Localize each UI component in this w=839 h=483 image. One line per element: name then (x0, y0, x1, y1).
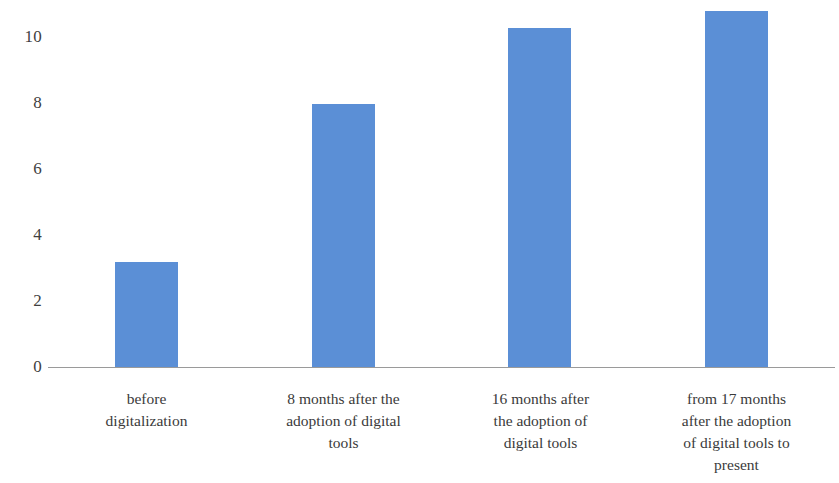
bar (312, 104, 375, 368)
bars-layer (0, 0, 839, 368)
x-axis-category-labels: beforedigitalization8 months after thead… (0, 388, 839, 483)
x-axis-label-line: the adoption of (442, 410, 639, 432)
x-axis-label-line: adoption of digital (245, 410, 442, 432)
bar (705, 11, 768, 368)
x-axis-line (48, 367, 835, 368)
x-axis-label-line: after the adoption (638, 410, 835, 432)
plot-area: 0246810 (0, 0, 839, 375)
x-axis-label-line: tools (245, 432, 442, 454)
x-axis-label-line: digital tools (442, 432, 639, 454)
x-axis-label: 16 months afterthe adoption ofdigital to… (442, 388, 639, 454)
x-axis-label-line: from 17 months (638, 388, 835, 410)
bar (508, 28, 571, 368)
x-axis-label-line: present (638, 454, 835, 476)
bar-chart: 0246810 beforedigitalization8 months aft… (0, 0, 839, 483)
x-axis-label-line: 8 months after the (245, 388, 442, 410)
x-axis-label-line: 16 months after (442, 388, 639, 410)
bar (115, 262, 178, 368)
x-axis-label: beforedigitalization (48, 388, 245, 432)
x-axis-label-line: digitalization (48, 410, 245, 432)
x-axis-label: from 17 monthsafter the adoptionof digit… (638, 388, 835, 476)
x-axis-label: 8 months after theadoption of digitaltoo… (245, 388, 442, 454)
x-axis-label-line: of digital tools to (638, 432, 835, 454)
x-axis-label-line: before (48, 388, 245, 410)
